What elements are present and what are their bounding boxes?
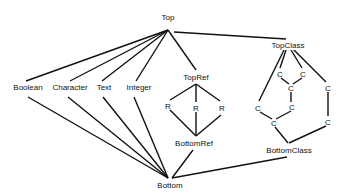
- lattice-diagram: Top Boolean Character Text Integer TopRe…: [0, 0, 343, 196]
- node-boolean: Boolean: [13, 83, 42, 92]
- edge-topref-r3: [196, 84, 220, 101]
- edge-c5-c7: [260, 112, 272, 119]
- node-c8: C: [325, 118, 331, 127]
- node-r2: R: [193, 104, 199, 113]
- node-top: Top: [162, 13, 175, 22]
- node-r1: R: [165, 102, 171, 111]
- edge-top-boolean: [26, 30, 168, 81]
- edge-c8-bottomclass: [289, 126, 326, 143]
- edge-c7-bottomclass: [275, 127, 288, 143]
- node-text: Text: [97, 83, 112, 92]
- edge-top-character: [70, 30, 168, 81]
- edge-integer-bottom: [134, 97, 168, 178]
- edge-top-topclass: [174, 32, 286, 39]
- node-c2: C: [300, 70, 306, 79]
- edge-c6-c7: [276, 111, 291, 119]
- node-integer: Integer: [127, 83, 152, 92]
- edge-r1-bottomref: [170, 110, 196, 136]
- node-topref: TopRef: [183, 73, 209, 82]
- node-c7: C: [271, 119, 277, 128]
- node-r3: R: [219, 104, 225, 113]
- node-c5: C: [255, 104, 261, 113]
- edge-text-bottom: [103, 97, 168, 178]
- node-topclass: TopClass: [272, 41, 305, 50]
- node-c3: C: [288, 84, 294, 93]
- edge-bottomref-bottom: [172, 150, 193, 178]
- edge-r3-bottomref: [196, 115, 221, 136]
- edge-character-bottom: [68, 97, 168, 178]
- node-c6: C: [289, 103, 295, 112]
- node-character: Character: [52, 83, 87, 92]
- edge-topclass-c4: [293, 49, 326, 82]
- edge-top-topref: [168, 30, 196, 70]
- edge-top-text: [102, 30, 168, 81]
- node-labels: Top Boolean Character Text Integer TopRe…: [10, 11, 331, 190]
- node-c4: C: [325, 84, 331, 93]
- edge-boolean-bottom: [28, 97, 168, 178]
- node-bottomref: BottomRef: [175, 139, 214, 148]
- node-c1: C: [277, 70, 283, 79]
- edge-bottomclass-bottom: [172, 157, 287, 178]
- edge-topref-r1: [170, 84, 196, 100]
- node-bottom: Bottom: [157, 181, 183, 190]
- edges: [26, 30, 328, 178]
- node-bottomclass: BottomClass: [266, 146, 311, 155]
